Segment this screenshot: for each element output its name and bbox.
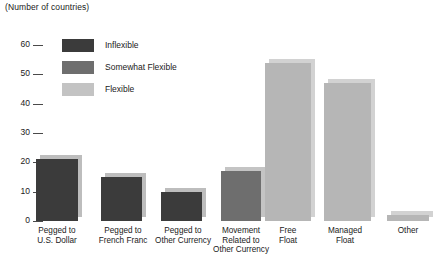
legend-label: Somewhat Flexible [105,61,177,74]
bar-face [101,177,142,221]
legend-swatch-icon [62,61,94,74]
bar-face [36,159,78,221]
y-axis-tick-mark [33,74,43,75]
bar-face [265,63,311,221]
x-axis-label-line: Float [257,236,319,246]
legend-label: Inflexible [105,39,139,52]
bar-flexible[interactable] [265,63,311,221]
y-axis-tick-label: 50 [21,68,30,78]
y-axis-tick-label: 60 [21,39,30,49]
y-axis-tick-label: 20 [21,156,30,166]
table-row [221,171,261,221]
y-axis-tick-mark [33,221,43,222]
bar-flexible[interactable] [387,215,429,221]
bar-face [161,192,202,221]
x-axis-label: Pegged toFrench Franc [92,226,154,245]
x-axis-label-line: Other [379,226,437,236]
bar-somewhat[interactable] [221,171,261,221]
x-axis-label-line: Pegged to [26,226,88,236]
x-axis-label-line: French Franc [92,236,154,246]
x-axis-label-line: Float [314,236,376,246]
y-axis-tick-label: 30 [21,127,30,137]
x-axis-label-line: Managed [314,226,376,236]
legend-swatch-icon [62,39,94,52]
bar-face [324,83,371,221]
table-row [36,159,78,221]
bar-face [221,171,261,221]
x-axis-label-line: Free [257,226,319,236]
x-axis-label: FreeFloat [257,226,319,245]
x-axis-label: ManagedFloat [314,226,376,245]
bar-face [387,215,429,221]
bar-inflexible[interactable] [161,192,202,221]
table-row [265,63,311,221]
bar-chart: (Number of countries) 6050403020100 Pegg… [0,0,442,262]
table-row [324,83,371,221]
bar-inflexible[interactable] [101,177,142,221]
y-axis-tick-mark [33,133,43,134]
bar-flexible[interactable] [324,83,371,221]
y-axis-tick-label: 10 [21,186,30,196]
legend-swatch-icon [62,83,94,96]
x-axis-label-line: Other Currency [206,245,276,255]
y-axis-tick-label: 40 [21,98,30,108]
x-axis-label-line: Pegged to [92,226,154,236]
y-axis-tick-mark [33,104,43,105]
bar-inflexible[interactable] [36,159,78,221]
y-axis-tick-mark [33,45,43,46]
x-axis-label-line: U.S. Dollar [26,236,88,246]
table-row [101,177,142,221]
legend-label: Flexible [105,83,134,96]
table-row [387,215,429,221]
x-axis-label: Other [379,226,437,236]
table-row [161,192,202,221]
y-axis-tick-label: 0 [25,215,30,225]
x-axis-label: Pegged toU.S. Dollar [26,226,88,245]
